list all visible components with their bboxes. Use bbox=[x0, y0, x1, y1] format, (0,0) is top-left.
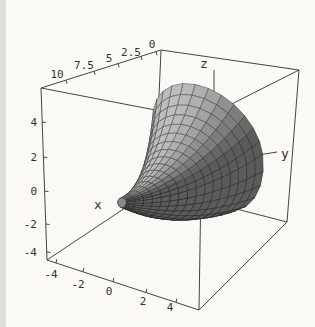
box-edge-AE bbox=[41, 88, 47, 260]
y-tick-mark bbox=[146, 289, 147, 293]
y-tick-mark bbox=[176, 299, 177, 303]
y-axis-tick-label: 0 bbox=[105, 285, 112, 298]
box-edge-EF bbox=[47, 260, 199, 310]
x-tick-mark bbox=[156, 52, 157, 56]
x-tick-mark bbox=[94, 71, 95, 75]
z-axis-tick-label: -2 bbox=[23, 218, 36, 231]
y-tick-mark bbox=[113, 278, 114, 282]
z-tick-mark bbox=[44, 191, 48, 192]
x-tick-mark bbox=[66, 80, 67, 84]
box-edge-BCc bbox=[161, 50, 299, 70]
z-axis-tick-label: 0 bbox=[30, 185, 37, 198]
z-tick-mark bbox=[42, 122, 46, 123]
y-axis-tick-label: 2 bbox=[139, 295, 146, 308]
x-tick-mark bbox=[118, 64, 119, 68]
x-axis-tick-label: 7.5 bbox=[74, 59, 94, 72]
y-axis-label: y bbox=[281, 146, 289, 161]
box-edge-FG bbox=[199, 222, 287, 310]
figure-3d-surface-plot: 107.552.50420-2-4-4-2024xyz bbox=[6, 0, 315, 327]
z-axis-label: z bbox=[200, 56, 208, 71]
z-tick-mark bbox=[43, 157, 47, 158]
y-tick-mark bbox=[83, 268, 84, 272]
z-tick-mark bbox=[45, 224, 49, 225]
y-axis-tick-label: -4 bbox=[44, 268, 58, 281]
x-axis-label: x bbox=[94, 197, 102, 212]
x-axis-tick-label: 2.5 bbox=[121, 46, 141, 59]
y-tick-mark bbox=[56, 259, 57, 263]
x-axis-tick-label: 0 bbox=[148, 38, 155, 51]
x-axis-tick-label: 5 bbox=[105, 52, 112, 65]
z-axis-tick-label: 4 bbox=[30, 116, 37, 129]
x-axis-tick-label: 10 bbox=[50, 68, 63, 81]
y-axis-tick-label: -2 bbox=[71, 278, 84, 291]
z-axis-tick-label: -4 bbox=[23, 246, 37, 259]
z-tick-mark bbox=[46, 252, 50, 253]
surface-tip-cap bbox=[117, 198, 125, 208]
x-tick-mark bbox=[141, 56, 142, 60]
plot-canvas: 107.552.50420-2-4-4-2024xyz bbox=[6, 0, 315, 327]
z-axis-tick-label: 2 bbox=[30, 151, 37, 164]
y-axis-tick-label: 4 bbox=[166, 301, 173, 314]
